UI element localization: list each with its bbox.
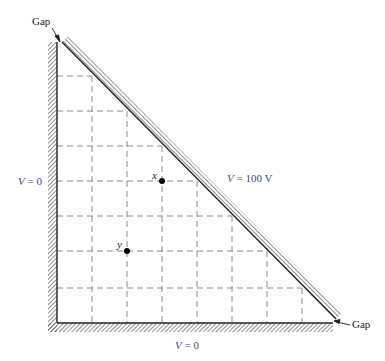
left-boundary-label: V = 0 bbox=[18, 175, 42, 187]
gap-bottom-arrow bbox=[334, 320, 350, 326]
point-x-marker bbox=[159, 178, 165, 184]
diagonal-boundary-wall bbox=[62, 36, 342, 319]
grid-lines bbox=[57, 76, 302, 323]
point-y-marker bbox=[124, 248, 130, 254]
diagram-canvas bbox=[0, 0, 385, 361]
gap-top-label: Gap bbox=[32, 15, 50, 27]
bottom-boundary-label: V = 0 bbox=[175, 339, 199, 351]
left-boundary-wall bbox=[48, 42, 57, 332]
point-x-label: x bbox=[152, 169, 157, 181]
gap-top-arrow bbox=[52, 28, 60, 42]
point-y-label: y bbox=[117, 238, 122, 250]
gap-bottom-label: Gap bbox=[352, 318, 370, 330]
diagonal-boundary-label: V = 100 V bbox=[227, 172, 272, 184]
bottom-boundary-wall bbox=[48, 323, 333, 332]
